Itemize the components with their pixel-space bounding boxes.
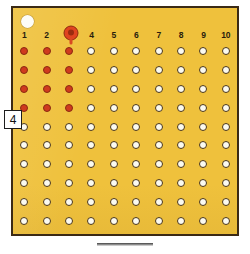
column-header-1[interactable]: 1 — [13, 29, 35, 42]
dot-cell-r3-c6[interactable] — [125, 85, 147, 93]
dot-cell-r7-c8[interactable] — [170, 160, 192, 168]
dot-cell-r1-c3[interactable] — [58, 47, 80, 55]
dot-cell-r5-c9[interactable] — [192, 123, 214, 131]
dot-cell-r4-c8[interactable] — [170, 104, 192, 112]
dot-cell-r9-c2[interactable] — [35, 198, 57, 206]
dot-cell-r9-c1[interactable] — [13, 198, 35, 206]
dot-cell-r6-c6[interactable] — [125, 141, 147, 149]
dot-cell-r5-c10[interactable] — [215, 123, 237, 131]
dot-cell-r5-c7[interactable] — [147, 123, 169, 131]
dot-cell-r1-c5[interactable] — [103, 47, 125, 55]
dot-cell-r5-c6[interactable] — [125, 123, 147, 131]
dot-cell-r8-c7[interactable] — [147, 179, 169, 187]
dot-cell-r2-c4[interactable] — [80, 66, 102, 74]
dot-cell-r4-c7[interactable] — [147, 104, 169, 112]
dot-cell-r5-c5[interactable] — [103, 123, 125, 131]
column-header-2[interactable]: 2 — [35, 29, 57, 42]
dot-cell-r10-c2[interactable] — [35, 217, 57, 225]
dot-cell-r10-c5[interactable] — [103, 217, 125, 225]
dot-cell-r9-c7[interactable] — [147, 198, 169, 206]
dot-cell-r10-c10[interactable] — [215, 217, 237, 225]
column-header-5[interactable]: 5 — [103, 29, 125, 42]
dot-cell-r3-c4[interactable] — [80, 85, 102, 93]
dot-cell-r9-c6[interactable] — [125, 198, 147, 206]
dot-cell-r3-c8[interactable] — [170, 85, 192, 93]
dot-cell-r2-c10[interactable] — [215, 66, 237, 74]
dot-cell-r6-c1[interactable] — [13, 141, 35, 149]
dot-cell-r4-c9[interactable] — [192, 104, 214, 112]
column-header-3[interactable]: 3 — [58, 29, 80, 42]
dot-cell-r10-c4[interactable] — [80, 217, 102, 225]
dot-cell-r4-c3[interactable] — [58, 104, 80, 112]
dot-cell-r1-c1[interactable] — [13, 47, 35, 55]
dot-cell-r5-c8[interactable] — [170, 123, 192, 131]
dot-cell-r2-c2[interactable] — [35, 66, 57, 74]
dot-cell-r1-c9[interactable] — [192, 47, 214, 55]
column-header-9[interactable]: 9 — [192, 29, 214, 42]
dot-cell-r3-c2[interactable] — [35, 85, 57, 93]
dot-cell-r10-c8[interactable] — [170, 217, 192, 225]
dot-cell-r2-c9[interactable] — [192, 66, 214, 74]
dot-cell-r4-c4[interactable] — [80, 104, 102, 112]
dot-cell-r3-c3[interactable] — [58, 85, 80, 93]
dot-cell-r2-c6[interactable] — [125, 66, 147, 74]
dot-cell-r9-c5[interactable] — [103, 198, 125, 206]
dot-cell-r7-c3[interactable] — [58, 160, 80, 168]
dot-cell-r9-c9[interactable] — [192, 198, 214, 206]
dot-cell-r8-c4[interactable] — [80, 179, 102, 187]
dot-cell-r4-c6[interactable] — [125, 104, 147, 112]
dot-cell-r8-c10[interactable] — [215, 179, 237, 187]
dot-cell-r8-c2[interactable] — [35, 179, 57, 187]
dot-cell-r7-c5[interactable] — [103, 160, 125, 168]
dot-cell-r6-c2[interactable] — [35, 141, 57, 149]
dot-cell-r2-c8[interactable] — [170, 66, 192, 74]
dot-cell-r9-c4[interactable] — [80, 198, 102, 206]
column-header-6[interactable]: 6 — [125, 29, 147, 42]
dot-cell-r5-c4[interactable] — [80, 123, 102, 131]
dot-cell-r1-c7[interactable] — [147, 47, 169, 55]
dot-cell-r7-c9[interactable] — [192, 160, 214, 168]
dot-cell-r6-c5[interactable] — [103, 141, 125, 149]
dot-cell-r5-c3[interactable] — [58, 123, 80, 131]
dot-cell-r7-c4[interactable] — [80, 160, 102, 168]
dot-cell-r8-c9[interactable] — [192, 179, 214, 187]
dot-cell-r2-c3[interactable] — [58, 66, 80, 74]
dot-cell-r8-c3[interactable] — [58, 179, 80, 187]
dot-cell-r8-c1[interactable] — [13, 179, 35, 187]
dot-cell-r1-c2[interactable] — [35, 47, 57, 55]
dot-cell-r6-c7[interactable] — [147, 141, 169, 149]
column-header-8[interactable]: 8 — [170, 29, 192, 42]
dot-cell-r9-c8[interactable] — [170, 198, 192, 206]
dot-cell-r7-c2[interactable] — [35, 160, 57, 168]
dot-cell-r7-c6[interactable] — [125, 160, 147, 168]
dot-cell-r3-c10[interactable] — [215, 85, 237, 93]
dot-cell-r8-c6[interactable] — [125, 179, 147, 187]
dot-cell-r1-c8[interactable] — [170, 47, 192, 55]
row-label-badge[interactable]: 4 — [4, 110, 22, 129]
dot-cell-r3-c1[interactable] — [13, 85, 35, 93]
dot-cell-r10-c3[interactable] — [58, 217, 80, 225]
dot-cell-r4-c10[interactable] — [215, 104, 237, 112]
dot-cell-r6-c3[interactable] — [58, 141, 80, 149]
dot-cell-r10-c1[interactable] — [13, 217, 35, 225]
dot-cell-r5-c2[interactable] — [35, 123, 57, 131]
column-header-10[interactable]: 10 — [215, 29, 237, 42]
dot-cell-r1-c6[interactable] — [125, 47, 147, 55]
dot-grid[interactable] — [13, 42, 237, 230]
dot-cell-r3-c9[interactable] — [192, 85, 214, 93]
dot-cell-r10-c6[interactable] — [125, 217, 147, 225]
dot-cell-r1-c10[interactable] — [215, 47, 237, 55]
dot-cell-r9-c3[interactable] — [58, 198, 80, 206]
dot-cell-r2-c1[interactable] — [13, 66, 35, 74]
dot-cell-r10-c7[interactable] — [147, 217, 169, 225]
dot-cell-r7-c1[interactable] — [13, 160, 35, 168]
dot-cell-r10-c9[interactable] — [192, 217, 214, 225]
dot-cell-r2-c7[interactable] — [147, 66, 169, 74]
dot-cell-r2-c5[interactable] — [103, 66, 125, 74]
dot-cell-r6-c10[interactable] — [215, 141, 237, 149]
dot-cell-r6-c9[interactable] — [192, 141, 214, 149]
dot-cell-r3-c5[interactable] — [103, 85, 125, 93]
dot-cell-r4-c5[interactable] — [103, 104, 125, 112]
column-header-7[interactable]: 7 — [147, 29, 169, 42]
corner-circle-indicator[interactable] — [21, 15, 34, 28]
